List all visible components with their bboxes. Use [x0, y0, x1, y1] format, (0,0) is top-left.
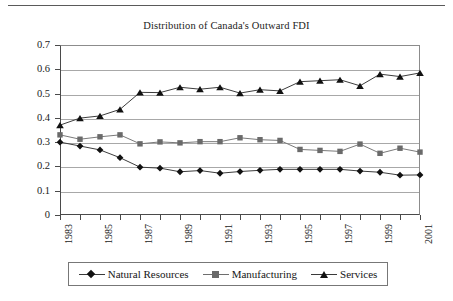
x-axis-tick-mark [400, 215, 401, 220]
x-axis-tick-mark [160, 215, 161, 220]
y-axis-tick-mark [55, 215, 60, 216]
legend-item-services[interactable]: Services [311, 268, 377, 280]
diamond-marker-icon [79, 269, 105, 280]
gridline [61, 70, 419, 71]
x-axis-tick-mark [140, 215, 141, 220]
gridline [61, 119, 419, 120]
chart-page: Distribution of Canada's Outward FDI 00.… [0, 0, 453, 301]
y-axis-tick-label: 0.3 [8, 136, 50, 147]
legend-label-services: Services [340, 268, 377, 280]
x-axis-tick-mark [180, 215, 181, 220]
square-marker-icon [203, 269, 229, 280]
gridline [61, 167, 419, 168]
legend-item-manufacturing[interactable]: Manufacturing [203, 268, 297, 280]
x-axis-tick-mark [220, 215, 221, 220]
x-axis-tick-mark [60, 215, 61, 220]
x-axis-tick-label: 2001 [424, 224, 434, 244]
x-axis-tick-mark [80, 215, 81, 220]
x-axis-tick-mark [420, 215, 421, 220]
x-axis-tick-mark [320, 215, 321, 220]
legend-item-natural-resources[interactable]: Natural Resources [79, 268, 189, 280]
x-axis-tick-label: 1997 [344, 224, 354, 244]
x-axis-tick-mark [360, 215, 361, 220]
gridline [61, 95, 419, 96]
y-axis-tick-label: 0.4 [8, 112, 50, 123]
y-axis-tick-label: 0 [8, 209, 50, 220]
x-axis-tick-mark [100, 215, 101, 220]
x-axis-tick-label: 1989 [184, 224, 194, 244]
chart-legend: Natural Resources Manufacturing Services [68, 262, 388, 286]
y-axis-tick-label: 0.1 [8, 185, 50, 196]
legend-label-manufacturing: Manufacturing [232, 268, 297, 280]
x-axis-tick-label: 1985 [104, 224, 114, 244]
x-axis-tick-mark [200, 215, 201, 220]
plot-area [60, 45, 420, 215]
x-axis-tick-mark [340, 215, 341, 220]
x-axis-tick-mark [280, 215, 281, 220]
triangle-marker-icon [311, 269, 337, 280]
x-axis-tick-label: 1995 [304, 224, 314, 244]
x-axis-tick-mark [120, 215, 121, 220]
y-axis-tick-label: 0.7 [8, 39, 50, 50]
x-axis-tick-label: 1987 [144, 224, 154, 244]
x-axis-tick-label: 1983 [64, 224, 74, 244]
x-axis-tick-mark [260, 215, 261, 220]
x-axis-tick-label: 1999 [384, 224, 394, 244]
legend-label-natural-resources: Natural Resources [108, 268, 189, 280]
diamond-glyph [86, 269, 94, 277]
y-axis-tick-label: 0.2 [8, 160, 50, 171]
x-axis-tick-label: 1993 [264, 224, 274, 244]
square-glyph [212, 271, 219, 278]
gridline [61, 192, 419, 193]
y-axis-tick-label: 0.5 [8, 88, 50, 99]
x-axis-tick-mark [300, 215, 301, 220]
chart-title: Distribution of Canada's Outward FDI [0, 20, 453, 31]
triangle-glyph [320, 271, 328, 278]
x-axis-tick-label: 1991 [224, 224, 234, 244]
top-divider-rule [8, 5, 445, 6]
y-axis-tick-label: 0.6 [8, 63, 50, 74]
x-axis-tick-mark [380, 215, 381, 220]
gridline [61, 143, 419, 144]
x-axis-tick-mark [240, 215, 241, 220]
